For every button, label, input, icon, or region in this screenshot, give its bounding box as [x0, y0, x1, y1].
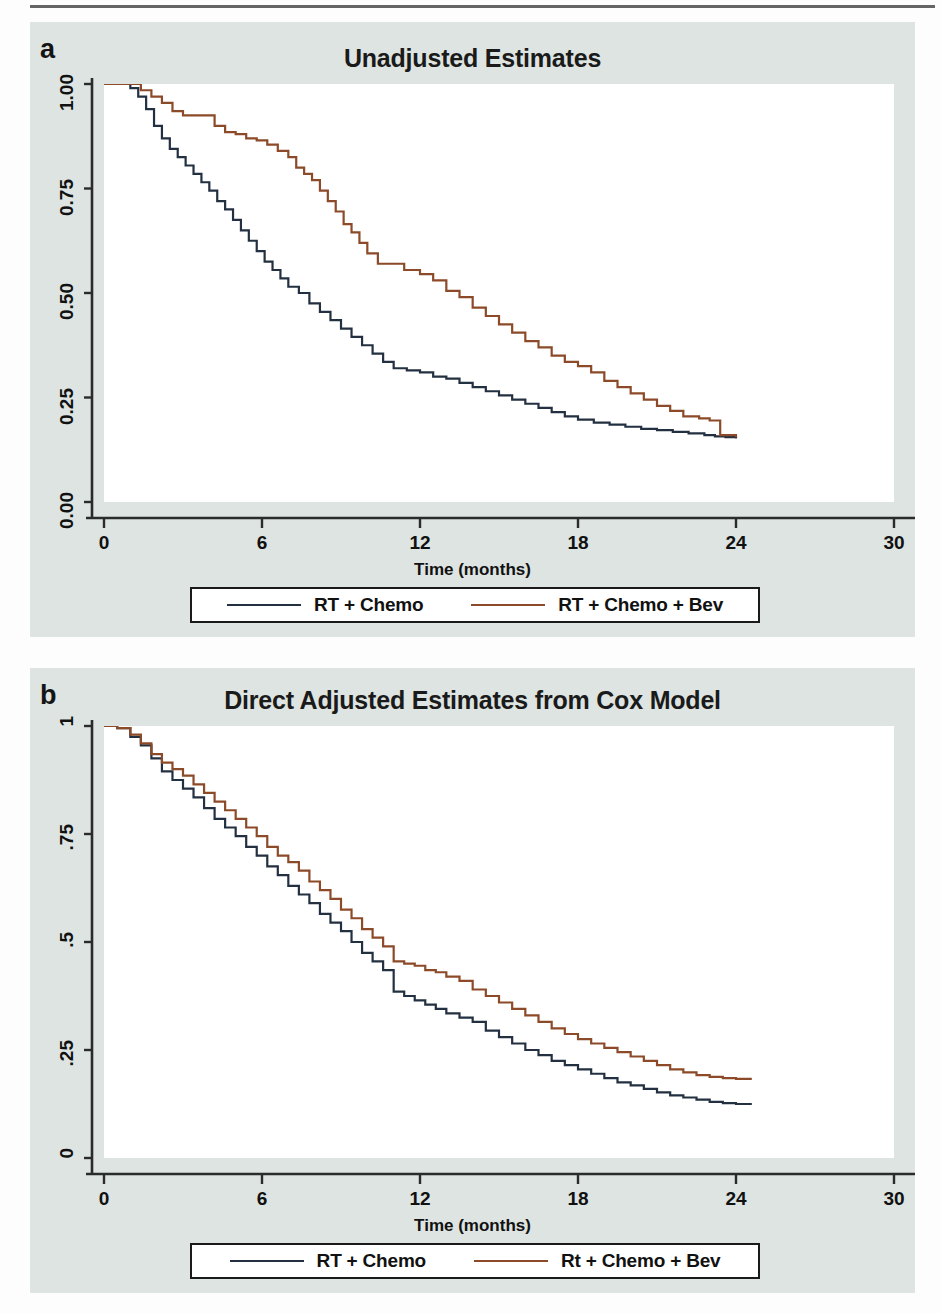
xtick-label: 18 — [567, 1188, 588, 1210]
xtick-label: 6 — [257, 532, 268, 554]
ytick-label: .5 — [56, 932, 78, 980]
figure-panel-b: b Direct Adjusted Estimates from Cox Mod… — [30, 668, 915, 1293]
panel-a-title: Unadjusted Estimates — [30, 44, 915, 73]
xtick-label: 24 — [725, 532, 746, 554]
page-top-rule — [30, 5, 935, 8]
panel-b-curves — [104, 726, 894, 1158]
ytick-label: 0.00 — [56, 492, 78, 540]
xtick-label: 12 — [409, 532, 430, 554]
legend-label-rt-chemo-bev: RT + Chemo + Bev — [558, 594, 723, 616]
ytick-label: 1.00 — [56, 74, 78, 122]
xtick-label: 30 — [883, 1188, 904, 1210]
legend-entry-rt-chemo-bev: Rt + Chemo + Bev — [474, 1250, 720, 1272]
legend-line-swatch-rt-chemo-bev — [471, 604, 545, 606]
ytick-label: 0.25 — [56, 388, 78, 436]
legend-line-swatch-rt-chemo — [227, 604, 301, 606]
legend-label-rt-chemo-bev: Rt + Chemo + Bev — [561, 1250, 720, 1272]
xtick-label: 0 — [99, 532, 110, 554]
panel-b-legend: RT + Chemo Rt + Chemo + Bev — [190, 1243, 760, 1279]
xtick-label: 18 — [567, 532, 588, 554]
legend-entry-rt-chemo-bev: RT + Chemo + Bev — [471, 594, 723, 616]
panel-a-curves — [104, 84, 894, 502]
figure-panel-a: a Unadjusted Estimates 0.000.250.500.751… — [30, 22, 915, 637]
ytick-label: 0.75 — [56, 179, 78, 227]
xtick-label: 6 — [257, 1188, 268, 1210]
panel-b-xaxis-label: Time (months) — [30, 1216, 915, 1236]
panel-b-title: Direct Adjusted Estimates from Cox Model — [30, 686, 915, 715]
xtick-label: 24 — [725, 1188, 746, 1210]
panel-a-xaxis-label: Time (months) — [30, 560, 915, 580]
legend-line-swatch-rt-chemo-bev — [474, 1260, 548, 1262]
ytick-label: 0.50 — [56, 283, 78, 331]
xtick-label: 12 — [409, 1188, 430, 1210]
legend-label-rt-chemo: RT + Chemo — [314, 594, 423, 616]
ytick-label: 1 — [56, 716, 78, 764]
panel-b-plot-area — [104, 726, 894, 1158]
legend-line-swatch-rt-chemo — [230, 1260, 304, 1262]
ytick-label: .75 — [56, 824, 78, 872]
xtick-label: 0 — [99, 1188, 110, 1210]
legend-entry-rt-chemo: RT + Chemo — [227, 594, 423, 616]
legend-entry-rt-chemo: RT + Chemo — [230, 1250, 426, 1272]
panel-a-plot-area — [104, 84, 894, 502]
ytick-label: .25 — [56, 1040, 78, 1088]
ytick-label: 0 — [56, 1148, 78, 1196]
legend-label-rt-chemo: RT + Chemo — [317, 1250, 426, 1272]
xtick-label: 30 — [883, 532, 904, 554]
panel-a-legend: RT + Chemo RT + Chemo + Bev — [190, 587, 760, 623]
